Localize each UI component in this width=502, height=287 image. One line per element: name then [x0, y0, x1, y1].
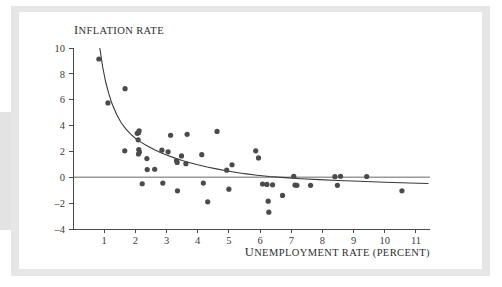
data-point: [183, 161, 188, 166]
x-tick-label: 8: [320, 235, 325, 246]
data-point: [145, 167, 150, 172]
y-tick-label: 6: [60, 94, 65, 105]
x-tick-label: 11: [411, 235, 421, 246]
data-point: [214, 129, 219, 134]
data-point: [136, 137, 141, 142]
x-tick-label: 6: [257, 235, 262, 246]
y-tick-label: 0: [60, 172, 65, 183]
data-point: [152, 167, 157, 172]
axes: [73, 48, 430, 229]
data-point: [136, 151, 141, 156]
data-point: [226, 187, 231, 192]
data-point: [199, 152, 204, 157]
y-tick-label: 2: [60, 146, 65, 157]
y-tick-label: –2: [54, 198, 66, 209]
data-point: [338, 174, 343, 179]
axis-tick-labels: 1086420–2–41234567891011: [54, 43, 422, 246]
y-tick-label: –4: [54, 224, 66, 235]
x-tick-label: 3: [164, 235, 169, 246]
fit-curve-path: [100, 48, 429, 183]
data-point: [201, 181, 206, 186]
data-point: [185, 132, 190, 137]
figure-page: 1086420–2–41234567891011 INFLATION RATEU…: [0, 0, 502, 287]
data-point: [166, 149, 171, 154]
data-point: [270, 182, 275, 187]
data-point: [224, 168, 229, 173]
data-point: [105, 100, 110, 105]
data-point: [364, 174, 369, 179]
data-point: [229, 162, 234, 167]
data-point: [168, 133, 173, 138]
data-point: [332, 174, 337, 179]
x-tick-label: 9: [351, 235, 356, 246]
data-point: [256, 155, 261, 160]
data-point: [266, 210, 271, 215]
scatter-plot: 1086420–2–41234567891011 INFLATION RATEU…: [0, 0, 502, 287]
data-point: [291, 174, 296, 179]
x-tick-label: 7: [289, 235, 294, 246]
data-point: [140, 181, 145, 186]
data-point: [205, 199, 210, 204]
data-point: [137, 128, 142, 133]
y-axis-title: INFLATION RATE: [74, 23, 164, 37]
data-point: [160, 181, 165, 186]
x-tick-label: 1: [102, 235, 107, 246]
data-point: [294, 183, 299, 188]
data-point: [399, 188, 404, 193]
x-tick-label: 4: [195, 235, 201, 246]
x-axis-title: UNEMPLOYMENT RATE (PERCENT): [245, 245, 430, 259]
data-point: [335, 183, 340, 188]
data-point: [280, 193, 285, 198]
data-point: [175, 160, 180, 165]
data-point: [122, 148, 127, 153]
axis-titles: INFLATION RATEUNEMPLOYMENT RATE (PERCENT…: [74, 23, 430, 259]
axis-ticks: [69, 48, 416, 233]
data-point: [159, 148, 164, 153]
y-tick-label: 8: [60, 69, 65, 80]
data-point: [122, 86, 127, 91]
y-tick-label: 4: [60, 120, 66, 131]
data-points: [96, 56, 404, 214]
y-tick-label: 10: [55, 43, 66, 54]
x-tick-label: 10: [380, 235, 391, 246]
data-point: [175, 188, 180, 193]
fitted-phillips-curve: [100, 48, 429, 183]
data-point: [96, 56, 101, 61]
data-point: [308, 183, 313, 188]
x-tick-label: 5: [226, 235, 231, 246]
data-point: [179, 153, 184, 158]
data-point: [266, 199, 271, 204]
data-point: [264, 182, 269, 187]
data-point: [253, 148, 258, 153]
data-point: [144, 156, 149, 161]
chart-canvas: 1086420–2–41234567891011 INFLATION RATEU…: [0, 0, 502, 287]
x-tick-label: 2: [133, 235, 138, 246]
